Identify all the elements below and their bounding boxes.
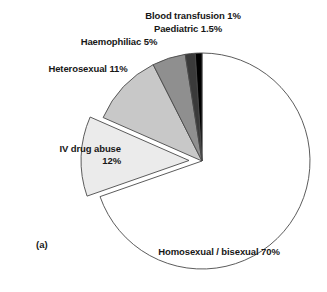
slice-label-iv-drug-abuse-line1: IV drug abuse (59, 143, 121, 154)
slice-label-iv-drug-abuse: IV drug abuse 12% (6, 143, 121, 166)
slice-label-paediatric: Paediatric 1.5% (113, 23, 263, 35)
panel-caption: (a) (36, 239, 48, 250)
slice-label-heterosexual: Heterosexual 11% (12, 63, 164, 75)
slice-label-haemophiliac: Haemophiliac 5% (43, 36, 195, 48)
pie-chart-figure: Blood transfusion 1% Paediatric 1.5% Hae… (0, 0, 327, 292)
slice-label-iv-drug-abuse-line2: 12% (102, 155, 121, 166)
slice-label-homosexual: Homosexual / bisexual 70% (148, 246, 290, 258)
slice-label-blood-transfusion: Blood transfusion 1% (113, 10, 273, 22)
